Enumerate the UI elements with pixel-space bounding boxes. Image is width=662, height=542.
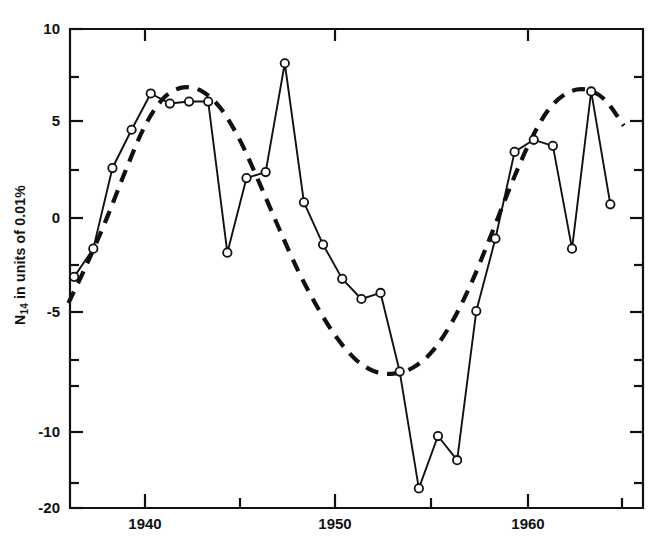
y-axis-label-text: N14 in units of 0.01% (12, 185, 31, 325)
data-point-marker (261, 168, 269, 176)
data-point-marker (127, 126, 135, 134)
y-axis-label-units: in units of 0.01% (12, 185, 28, 303)
data-point-marker (185, 97, 193, 105)
y-axis-label-subscript: 14 (19, 303, 30, 315)
data-point-marker (70, 273, 78, 281)
data-point-marker (376, 289, 384, 297)
data-point-marker (108, 164, 116, 172)
data-point-marker (89, 244, 97, 252)
data-point-marker (568, 244, 576, 252)
data-point-marker (510, 148, 518, 156)
data-point-marker (300, 198, 308, 206)
data-point-marker (357, 295, 365, 303)
chart-plot: 1050-5-10-20194019501960 (0, 0, 662, 542)
data-point-marker (587, 87, 595, 95)
y-tick-label: 10 (43, 20, 60, 37)
data-point-marker (434, 432, 442, 440)
axis-tick-labels: 1050-5-10-20194019501960 (38, 20, 544, 532)
data-point-marker (147, 89, 155, 97)
measured-series-markers (70, 59, 615, 493)
y-tick-label: 0 (52, 209, 60, 226)
data-point-marker (530, 136, 538, 144)
data-point-marker (415, 484, 423, 492)
data-point-marker (204, 97, 212, 105)
y-axis-label: N14 in units of 0.01% (6, 140, 36, 370)
data-point-marker (549, 142, 557, 150)
data-point-marker (166, 99, 174, 107)
data-point-marker (472, 307, 480, 315)
data-point-marker (395, 367, 403, 375)
data-point-marker (242, 174, 250, 182)
x-tick-label: 1940 (128, 515, 161, 532)
y-tick-label: -5 (47, 303, 60, 320)
y-tick-label: -20 (38, 499, 60, 516)
data-point-marker (338, 275, 346, 283)
smoothed-fit-curve (68, 87, 623, 374)
figure-canvas: 1050-5-10-20194019501960 N14 in units of… (0, 0, 662, 542)
data-point-marker (491, 234, 499, 242)
data-point-marker (223, 248, 231, 256)
x-tick-label: 1950 (318, 515, 351, 532)
x-tick-label: 1960 (511, 515, 544, 532)
y-axis-label-symbol: N (12, 315, 28, 325)
data-point-marker (319, 240, 327, 248)
data-point-marker (281, 59, 289, 67)
y-tick-label: 5 (52, 112, 60, 129)
data-point-marker (453, 456, 461, 464)
y-tick-label: -10 (38, 423, 60, 440)
data-point-marker (606, 200, 614, 208)
